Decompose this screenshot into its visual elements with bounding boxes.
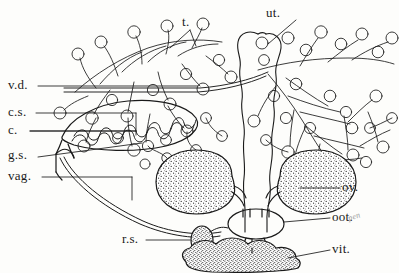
label-cirrus-sac: c.s.: [8, 104, 27, 120]
label-vagina: vag.: [8, 168, 31, 184]
label-ovary: ov.: [342, 179, 358, 195]
label-receptaculum-seminis: r.s.: [122, 231, 138, 247]
anatomical-diagram: t. ut. v.d. c.s. c. g.s. vag. ov. oot. v…: [0, 0, 399, 273]
label-cirrus: c.: [8, 122, 18, 138]
label-genital-sinus: g.s.: [8, 147, 27, 163]
diagram-canvas: [0, 0, 399, 273]
ovary-left: [156, 150, 246, 214]
label-vitellarium: vit.: [332, 241, 350, 257]
label-uterus: ut.: [266, 5, 280, 21]
label-vas-deferens: v.d.: [8, 77, 28, 93]
vitellarium-mass: [183, 238, 301, 272]
label-testes: t.: [182, 14, 189, 30]
vas-deferens: [64, 72, 268, 92]
